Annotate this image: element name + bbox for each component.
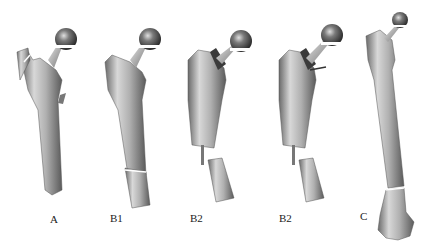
panel-b2-femur-1 [188,30,252,202]
panel-label-b1: B1 [110,212,123,224]
panel-label-c: C [360,210,367,222]
panel-label-b2-second: B2 [279,212,292,224]
panel-label-a: A [50,213,58,225]
panel-b2-femur-2 [279,24,343,202]
panel-a-femur [17,28,77,195]
panel-label-b2-first: B2 [190,212,203,224]
panel-b1-femur [105,28,161,208]
panel-c-femur [366,12,414,240]
figure: A B1 B2 B2 C [0,0,433,247]
femur-illustrations [0,0,433,247]
